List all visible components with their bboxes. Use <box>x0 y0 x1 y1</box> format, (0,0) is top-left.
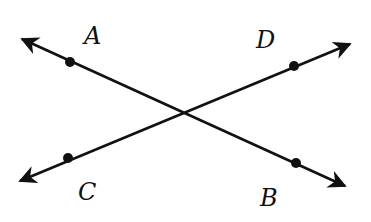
intersecting-lines-figure <box>0 0 371 222</box>
point-d <box>289 61 299 71</box>
label-a: A <box>84 24 101 48</box>
diagram-canvas: A D C B <box>0 0 371 222</box>
point-c <box>63 153 73 163</box>
label-b: B <box>260 186 278 210</box>
label-c: C <box>78 180 96 204</box>
point-a <box>65 57 75 67</box>
point-b <box>291 158 301 168</box>
label-d: D <box>256 28 275 52</box>
